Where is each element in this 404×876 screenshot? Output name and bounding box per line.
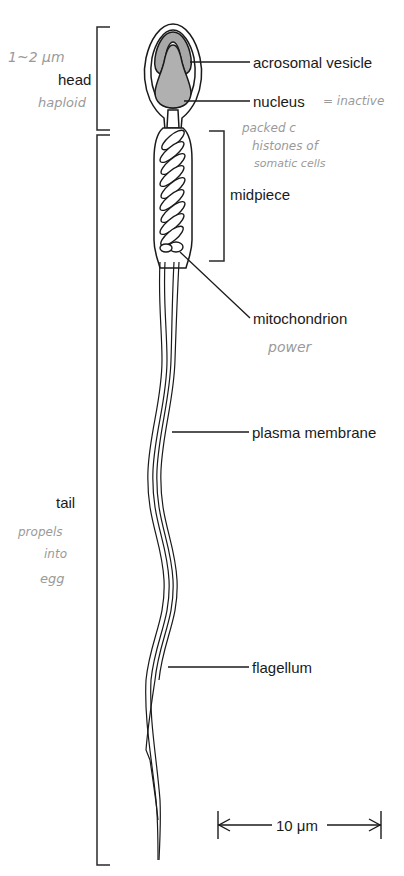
label-nucleus: nucleus xyxy=(253,94,305,109)
note-propels: propels xyxy=(18,526,62,538)
sperm-tail xyxy=(146,262,179,860)
label-head: head xyxy=(58,72,91,87)
leader-mitochondrion xyxy=(180,252,250,318)
sperm-neck xyxy=(167,110,179,128)
note-histones: histones of xyxy=(252,140,318,152)
label-flagellum: flagellum xyxy=(252,660,312,675)
note-power: power xyxy=(268,340,311,354)
note-egg: egg xyxy=(40,572,65,585)
note-haploid: haploid xyxy=(38,96,86,109)
note-packed: packed c xyxy=(242,122,296,134)
note-somatic-cells: somatic cells xyxy=(254,158,326,169)
label-acrosomal-vesicle: acrosomal vesicle xyxy=(253,55,372,70)
label-tail: tail xyxy=(56,495,75,510)
tail-bracket xyxy=(97,135,110,865)
midpiece-bracket xyxy=(209,131,224,261)
sperm-diagram: head midpiece tail acrosomal vesicle nuc… xyxy=(0,0,404,876)
label-midpiece: midpiece xyxy=(230,187,290,202)
scale-bar-label: 10 μm xyxy=(276,818,318,833)
label-mitochondrion: mitochondrion xyxy=(253,311,347,326)
note-into: into xyxy=(44,548,67,560)
note-nucleus-inactive: = inactive xyxy=(323,95,384,107)
note-head-size: 1~2 μm xyxy=(8,50,65,64)
label-plasma-membrane: plasma membrane xyxy=(252,425,376,440)
head-bracket xyxy=(97,27,110,130)
